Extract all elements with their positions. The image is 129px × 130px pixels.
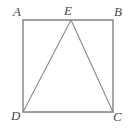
vertex-label-e: E (64, 4, 72, 17)
vertex-label-c: C (113, 110, 122, 123)
vertex-label-d: D (11, 109, 20, 122)
geometry-figure: A E B D C (0, 0, 129, 130)
vertex-label-a: A (13, 5, 21, 18)
vertex-label-b: B (114, 5, 122, 18)
